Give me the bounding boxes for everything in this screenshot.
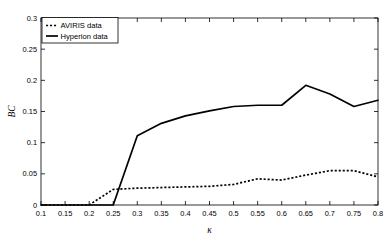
line-chart: 0.10.150.20.250.30.350.40.450.50.550.60.… <box>0 0 390 244</box>
x-tick-label: 0.4 <box>180 209 190 218</box>
y-tick-label: 0.1 <box>27 138 37 147</box>
y-tick-label: 0.3 <box>27 14 37 23</box>
legend-label-aviris: AVIRIS data <box>61 21 103 30</box>
x-tick-label: 0.15 <box>58 209 72 218</box>
y-tick-label: 0.2 <box>27 76 37 85</box>
x-tick-label: 0.7 <box>325 209 335 218</box>
x-tick-label: 0.8 <box>373 209 383 218</box>
y-tick-label: 0.25 <box>23 45 37 54</box>
x-axis-title: κ <box>207 225 212 235</box>
x-tick-label: 0.25 <box>106 209 120 218</box>
data-series-group <box>41 85 378 205</box>
chart-legend: AVIRIS data Hyperion data <box>42 18 118 44</box>
x-tick-label: 0.5 <box>228 209 238 218</box>
x-tick-label: 0.35 <box>154 209 168 218</box>
x-tick-label: 0.65 <box>299 209 313 218</box>
y-axis-tick-labels: 00.050.10.150.20.250.3 <box>23 14 37 210</box>
x-tick-label: 0.6 <box>277 209 287 218</box>
y-tick-label: 0.05 <box>23 169 37 178</box>
x-tick-label: 0.45 <box>202 209 216 218</box>
y-axis-title: BC <box>7 105 17 118</box>
legend-label-hyperion: Hyperion data <box>61 32 109 41</box>
x-tick-label: 0.2 <box>84 209 94 218</box>
x-tick-label: 0.3 <box>132 209 142 218</box>
y-tick-label: 0 <box>33 201 37 210</box>
series-line-aviris-data <box>41 171 378 205</box>
x-axis-tick-labels: 0.10.150.20.250.30.350.40.450.50.550.60.… <box>36 209 383 218</box>
x-tick-label: 0.55 <box>250 209 264 218</box>
x-tick-label: 0.75 <box>347 209 361 218</box>
x-tick-label: 0.1 <box>36 209 46 218</box>
y-tick-label: 0.15 <box>23 107 37 116</box>
chart-page: 0.10.150.20.250.30.350.40.450.50.550.60.… <box>0 0 390 244</box>
